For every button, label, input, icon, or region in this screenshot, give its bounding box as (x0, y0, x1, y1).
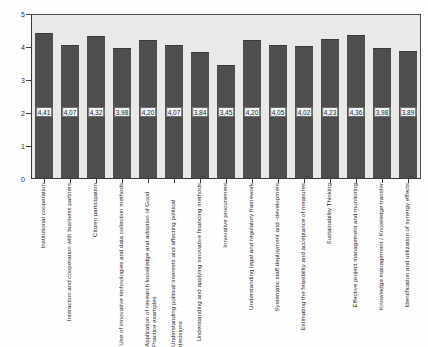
bar-group: 4,32 (87, 14, 104, 179)
bars-layer: 4,414,074,323,984,204,073,843,454,204,05… (31, 14, 421, 179)
bar-group: 4,02 (295, 14, 312, 179)
bar-value-label: 3,89 (400, 107, 416, 117)
bar-group: 4,41 (35, 14, 52, 179)
bar-value-label: 4,20 (244, 107, 260, 117)
y-axis-tick-label: 5 (16, 11, 25, 18)
bar-group: 4,20 (243, 14, 260, 179)
x-axis-label: Identification and utilization of synerg… (404, 183, 428, 307)
y-axis-tick-label: 0 (16, 176, 25, 183)
y-axis-tick-label: 2 (16, 110, 25, 117)
bar-group: 4,07 (165, 14, 182, 179)
bar-group: 4,23 (321, 14, 338, 179)
bar-value-label: 4,07 (166, 107, 182, 117)
bar-group: 4,20 (139, 14, 156, 179)
bar-value-label: 4,20 (140, 107, 156, 117)
bar-value-label: 3,45 (218, 107, 234, 117)
bar-value-label: 4,02 (296, 107, 312, 117)
y-axis-tick-label: 4 (16, 44, 25, 51)
bar-value-label: 3,98 (114, 107, 130, 117)
y-axis-tick-label: 3 (16, 77, 25, 84)
bar (217, 65, 234, 179)
bar-value-label: 4,32 (88, 107, 104, 117)
bar-group: 4,36 (347, 14, 364, 179)
x-axis-label-text: Identification and utilization of synerg… (404, 183, 428, 307)
bar-value-label: 3,84 (192, 107, 208, 117)
bar-group: 4,05 (269, 14, 286, 179)
bar-value-label: 4,41 (36, 107, 52, 117)
bar-chart: 012345 4,414,074,323,984,204,073,843,454… (0, 0, 428, 347)
bar-group: 3,98 (373, 14, 390, 179)
bar-value-label: 3,98 (374, 107, 390, 117)
bar-value-label: 4,36 (348, 107, 364, 117)
bar-group: 4,07 (61, 14, 78, 179)
bar-group: 3,45 (217, 14, 234, 179)
bar-value-label: 4,05 (270, 107, 286, 117)
bar-group: 3,84 (191, 14, 208, 179)
bar-group: 3,98 (113, 14, 130, 179)
bar-value-label: 4,07 (62, 107, 78, 117)
bar-value-label: 4,23 (322, 107, 338, 117)
bar-group: 3,89 (399, 14, 416, 179)
y-axis-tick-label: 1 (16, 143, 25, 150)
